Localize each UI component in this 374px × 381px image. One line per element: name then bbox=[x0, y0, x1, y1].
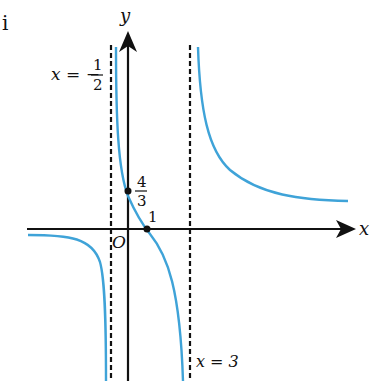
curve-right-branch bbox=[198, 47, 348, 201]
curve-left-branch bbox=[28, 235, 106, 381]
asymptote-left-numerator: 1 bbox=[93, 56, 103, 74]
corner-label: i bbox=[2, 11, 8, 35]
y-intercept-numerator: 4 bbox=[137, 173, 147, 191]
y-axis-label: y bbox=[119, 5, 131, 26]
point-y-intercept bbox=[125, 188, 132, 195]
y-intercept-denominator: 3 bbox=[137, 192, 147, 210]
x-intercept-label: 1 bbox=[148, 208, 158, 226]
function-graph: i y x O x = − 1 2 x = 3 4 3 1 bbox=[0, 0, 374, 381]
asymptote-left-denominator: 2 bbox=[93, 76, 103, 94]
point-x-intercept bbox=[144, 226, 151, 233]
origin-label: O bbox=[112, 232, 126, 252]
x-axis-label: x bbox=[359, 218, 369, 239]
asymptote-right-label: x = 3 bbox=[196, 352, 239, 371]
